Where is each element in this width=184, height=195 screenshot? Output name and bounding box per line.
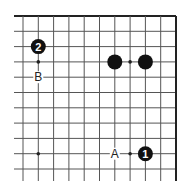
black-stone[interactable] <box>107 54 122 69</box>
move-number-2: 2 <box>35 41 41 53</box>
hoshi-point <box>37 60 41 64</box>
black-stone[interactable] <box>138 54 153 69</box>
hoshi-point <box>37 152 41 156</box>
go-board: BA21 <box>0 0 184 195</box>
hoshi-point <box>128 152 132 156</box>
hoshi-point <box>128 60 132 64</box>
move-number-1: 1 <box>142 148 148 160</box>
point-label-a: A <box>111 147 119 161</box>
point-label-b: B <box>34 70 42 84</box>
